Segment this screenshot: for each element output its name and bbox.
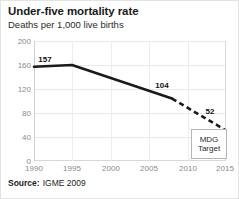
y-tick-label: 80 bbox=[5, 109, 31, 118]
source-label: Source: bbox=[8, 178, 40, 188]
mdg-label-line2: Target bbox=[198, 144, 220, 153]
x-tick-label: 2005 bbox=[140, 164, 158, 173]
mdg-label-line1: MDG bbox=[200, 135, 219, 144]
y-tick-label: 120 bbox=[5, 85, 31, 94]
series-observed-line bbox=[34, 65, 172, 99]
data-label-52: 52 bbox=[206, 107, 215, 116]
x-tick-label: 2000 bbox=[102, 164, 120, 173]
y-axis-labels: 200 160 120 80 40 0 bbox=[1, 41, 31, 161]
x-tick-label: 2010 bbox=[179, 164, 197, 173]
mdg-target-annotation: MDG Target bbox=[191, 129, 227, 159]
y-tick-label: 160 bbox=[5, 61, 31, 70]
chart-subtitle: Deaths per 1,000 live births bbox=[8, 19, 124, 30]
chart-figure: Under-five mortality rate Deaths per 1,0… bbox=[0, 0, 239, 199]
data-label-157: 157 bbox=[38, 55, 51, 64]
source-value: IGME 2009 bbox=[43, 178, 86, 188]
page-title: Under-five mortality rate bbox=[8, 5, 138, 17]
x-tick-label: 1995 bbox=[63, 164, 81, 173]
series-projection-line bbox=[172, 99, 225, 130]
y-tick-label: 40 bbox=[5, 133, 31, 142]
x-tick-label: 1990 bbox=[25, 164, 43, 173]
data-label-104: 104 bbox=[155, 81, 168, 90]
y-tick-label: 200 bbox=[5, 37, 31, 46]
x-tick-label: 2015 bbox=[216, 164, 234, 173]
source-note: Source:IGME 2009 bbox=[8, 178, 86, 188]
x-axis-labels: 1990 1995 2000 2005 2010 2015 bbox=[34, 164, 226, 176]
